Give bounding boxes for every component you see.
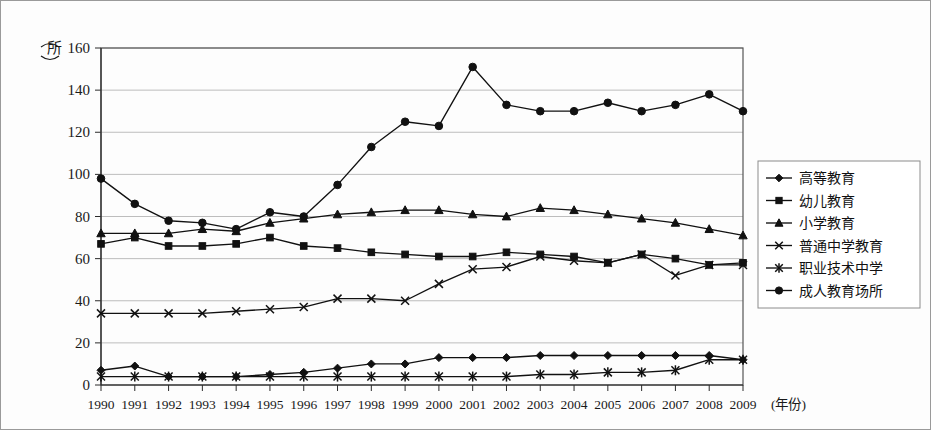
xtick-label-2004: 2004 xyxy=(561,397,588,412)
datapoint-普通中学教育-2007 xyxy=(671,271,679,279)
xtick-label-2007: 2007 xyxy=(662,397,689,412)
y-axis-unit-bracket-lower xyxy=(41,56,59,60)
datapoint-成人教育场所-1999 xyxy=(401,118,409,126)
datapoint-成人教育场所-2000 xyxy=(435,122,443,130)
datapoint-幼儿教育-2001 xyxy=(469,253,476,260)
datapoint-幼儿教育-1998 xyxy=(368,249,375,256)
legend-label-普通中学教育: 普通中学教育 xyxy=(799,239,883,254)
datapoint-成人教育场所-2004 xyxy=(570,107,578,115)
ytick-label-40: 40 xyxy=(75,293,90,309)
xtick-label-2001: 2001 xyxy=(459,397,486,412)
x-axis-title: (年份) xyxy=(771,397,806,412)
datapoint-幼儿教育-2002 xyxy=(503,249,510,256)
legend-label-职业技术中学: 职业技术中学 xyxy=(799,261,883,276)
ytick-label-60: 60 xyxy=(75,251,90,267)
ytick-label-160: 160 xyxy=(68,40,91,56)
ytick-label-80: 80 xyxy=(75,209,90,225)
series-普通中学教育 xyxy=(97,250,747,317)
datapoint-高等教育-2004 xyxy=(570,352,578,360)
datapoint-高等教育-2000 xyxy=(435,354,443,362)
xtick-label-2009: 2009 xyxy=(730,397,757,412)
series-line-成人教育场所 xyxy=(101,67,743,229)
datapoint-成人教育场所-2006 xyxy=(638,107,646,115)
xtick-label-1996: 1996 xyxy=(290,397,317,412)
datapoint-幼儿教育-1994 xyxy=(233,241,240,248)
series-line-职业技术中学 xyxy=(101,360,743,377)
datapoint-普通中学教育-2000 xyxy=(435,280,443,288)
xtick-label-1997: 1997 xyxy=(324,397,351,412)
datapoint-高等教育-2006 xyxy=(638,352,646,360)
series-line-小学教育 xyxy=(101,208,743,235)
chart-figure: 020406080100120140160所199019911992199319… xyxy=(0,0,931,430)
legend-label-小学教育: 小学教育 xyxy=(799,216,855,231)
xtick-label-2006: 2006 xyxy=(628,397,655,412)
datapoint-高等教育-2001 xyxy=(469,354,477,362)
xtick-label-1990: 1990 xyxy=(88,397,115,412)
series-职业技术中学 xyxy=(97,355,747,382)
datapoint-幼儿教育-1993 xyxy=(199,243,206,250)
series-成人教育场所 xyxy=(97,63,747,233)
datapoint-幼儿教育-1996 xyxy=(300,243,307,250)
xtick-label-1994: 1994 xyxy=(223,397,250,412)
datapoint-成人教育场所-2009 xyxy=(739,107,747,115)
datapoint-成人教育场所-1990 xyxy=(97,175,105,183)
datapoint-高等教育-1997 xyxy=(334,364,342,372)
line-chart: 020406080100120140160所199019911992199319… xyxy=(1,1,931,430)
xtick-label-2005: 2005 xyxy=(594,397,621,412)
datapoint-高等教育-1998 xyxy=(367,360,375,368)
xtick-label-2003: 2003 xyxy=(527,397,554,412)
xtick-label-2000: 2000 xyxy=(425,397,452,412)
legend-label-高等教育: 高等教育 xyxy=(799,170,855,186)
xtick-label-1995: 1995 xyxy=(256,397,283,412)
datapoint-高等教育-1999 xyxy=(401,360,409,368)
ytick-label-140: 140 xyxy=(68,82,91,98)
x-axis-ticks-group: 1990199119921993199419951996199719981999… xyxy=(88,385,757,412)
series-幼儿教育 xyxy=(98,234,747,268)
y-axis-unit-label: 所 xyxy=(47,40,62,56)
xtick-label-1993: 1993 xyxy=(189,397,216,412)
datapoint-成人教育场所-1997 xyxy=(334,181,342,189)
datapoint-成人教育场所-1991 xyxy=(131,200,139,208)
datapoint-成人教育场所-1998 xyxy=(368,143,376,151)
datapoint-成人教育场所-1994 xyxy=(232,225,240,233)
xtick-label-1991: 1991 xyxy=(121,397,148,412)
series-line-高等教育 xyxy=(101,356,743,377)
datapoint-幼儿教育-1999 xyxy=(402,251,409,258)
xtick-label-1992: 1992 xyxy=(155,397,182,412)
ytick-label-20: 20 xyxy=(75,335,90,351)
datapoint-高等教育-1991 xyxy=(131,362,139,370)
datapoint-成人教育场所-2008 xyxy=(705,91,713,99)
legend-label-成人教育场所: 成人教育场所 xyxy=(799,284,883,299)
series-line-普通中学教育 xyxy=(101,254,743,313)
xtick-label-1998: 1998 xyxy=(358,397,385,412)
legend-marker-square-icon xyxy=(776,197,782,203)
ytick-label-120: 120 xyxy=(68,124,91,140)
datapoint-幼儿教育-1997 xyxy=(334,245,341,252)
ytick-label-100: 100 xyxy=(68,166,91,182)
datapoint-成人教育场所-1993 xyxy=(199,219,207,227)
datapoint-高等教育-2003 xyxy=(536,352,544,360)
datapoint-幼儿教育-2007 xyxy=(672,255,679,262)
xtick-label-2002: 2002 xyxy=(493,397,520,412)
datapoint-成人教育场所-2003 xyxy=(536,107,544,115)
datapoint-幼儿教育-1992 xyxy=(165,243,172,250)
datapoint-幼儿教育-1995 xyxy=(267,234,274,241)
datapoint-成人教育场所-1996 xyxy=(300,213,308,221)
series-line-幼儿教育 xyxy=(101,238,743,265)
datapoint-幼儿教育-1990 xyxy=(98,241,105,248)
datapoint-成人教育场所-1992 xyxy=(165,217,173,225)
datapoint-高等教育-2007 xyxy=(671,352,679,360)
datapoint-成人教育场所-2007 xyxy=(672,101,680,109)
legend-label-幼儿教育: 幼儿教育 xyxy=(799,194,855,209)
chart-legend: 高等教育幼儿教育小学教育普通中学教育职业技术中学成人教育场所 xyxy=(758,161,920,308)
datapoint-成人教育场所-2001 xyxy=(469,63,477,71)
datapoint-成人教育场所-1995 xyxy=(266,208,274,216)
datapoint-高等教育-2005 xyxy=(604,352,612,360)
datapoint-小学教育-2003 xyxy=(536,204,544,212)
xtick-label-2008: 2008 xyxy=(696,397,723,412)
series-小学教育 xyxy=(97,204,747,239)
datapoint-成人教育场所-2002 xyxy=(503,101,511,109)
legend-marker-circle-icon xyxy=(775,287,782,294)
datapoint-成人教育场所-2005 xyxy=(604,99,612,107)
ytick-label-0: 0 xyxy=(83,377,91,393)
